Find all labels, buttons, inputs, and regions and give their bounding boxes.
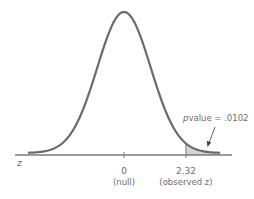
- z-axis-label: z: [16, 158, 22, 168]
- p-value-annotation: pvalue = .0102: [182, 113, 248, 123]
- annotation-arrowhead: [207, 141, 211, 147]
- tick-sublabel: (null): [113, 177, 135, 187]
- tick-label: 2.32: [176, 166, 196, 176]
- normal-density-curve: [28, 12, 220, 153]
- tick-sublabel: (observed z): [159, 177, 212, 187]
- annotation-arrow: [209, 127, 215, 143]
- tick-label: 0: [121, 166, 127, 176]
- p-value-text: value = .0102: [188, 113, 248, 123]
- normal-curve-chart: 0(null)2.32(observed z) z pvalue = .0102: [0, 0, 254, 199]
